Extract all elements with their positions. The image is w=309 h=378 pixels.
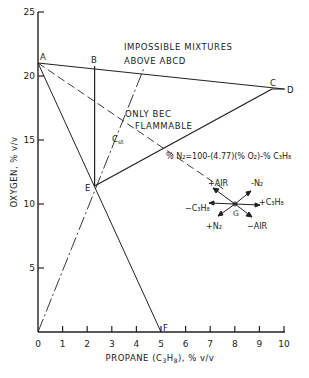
label-f: F bbox=[163, 323, 168, 333]
label-e: E bbox=[85, 183, 90, 193]
svg-text:3: 3 bbox=[109, 339, 115, 349]
svg-text:1: 1 bbox=[60, 339, 66, 349]
svg-text:10: 10 bbox=[278, 339, 290, 349]
g-plus-air: +AIR bbox=[208, 179, 229, 188]
annotation-impossible-1: IMPOSSIBLE MIXTURES bbox=[124, 42, 233, 52]
g-plus-c3h8: +C₃H₈ bbox=[259, 198, 284, 207]
svg-text:9: 9 bbox=[257, 339, 263, 349]
svg-text:8: 8 bbox=[232, 339, 238, 349]
annotation-equation: % N₂=100-(4.77)(% O₂)-% C₃H₈ bbox=[166, 152, 291, 161]
annotation-flammable-1: ONLY BEC bbox=[125, 109, 172, 119]
y-tick-labels: 25 20 15 10 5 bbox=[24, 7, 36, 273]
annotation-impossible-2: ABOVE ABCD bbox=[124, 56, 186, 66]
svg-text:5: 5 bbox=[29, 263, 35, 273]
svg-text:6: 6 bbox=[183, 339, 189, 349]
line-cst bbox=[38, 68, 144, 332]
x-ticks bbox=[63, 326, 284, 332]
g-minus-n2: -N₂ bbox=[251, 179, 263, 188]
y-axis-label: OXYGEN, % v/v bbox=[9, 136, 19, 207]
g-minus-c3h8: −C₃H₈ bbox=[185, 204, 210, 213]
annotation-cst: Cst bbox=[112, 134, 124, 145]
label-b: B bbox=[91, 55, 97, 65]
line-dashed-a bbox=[38, 63, 225, 190]
g-plus-n2: +N₂ bbox=[206, 222, 222, 231]
svg-text:7: 7 bbox=[207, 339, 213, 349]
g-minus-air: −AIR bbox=[247, 222, 268, 231]
x-axis-label: PROPANE (C3H8), % v/v bbox=[106, 353, 215, 364]
label-g: G bbox=[233, 209, 239, 218]
svg-text:0: 0 bbox=[35, 339, 41, 349]
svg-text:10: 10 bbox=[24, 199, 36, 209]
line-a-f bbox=[38, 63, 161, 332]
svg-text:15: 15 bbox=[24, 135, 35, 145]
svg-text:5: 5 bbox=[158, 339, 164, 349]
x-tick-labels: 0 1 2 3 4 5 6 7 8 9 10 bbox=[35, 339, 290, 349]
svg-text:20: 20 bbox=[24, 71, 36, 81]
svg-text:4: 4 bbox=[134, 339, 140, 349]
svg-text:25: 25 bbox=[24, 7, 35, 17]
label-a: A bbox=[40, 52, 46, 62]
y-ticks bbox=[38, 12, 44, 268]
flammability-chart: 25 20 15 10 5 0 1 2 3 4 5 6 7 8 9 10 PRO… bbox=[0, 0, 309, 378]
label-c: C bbox=[270, 78, 276, 88]
annotation-flammable-2: FLAMMABLE bbox=[135, 121, 192, 131]
svg-text:2: 2 bbox=[84, 339, 90, 349]
line-a-d bbox=[38, 63, 284, 89]
label-d: D bbox=[287, 85, 294, 95]
